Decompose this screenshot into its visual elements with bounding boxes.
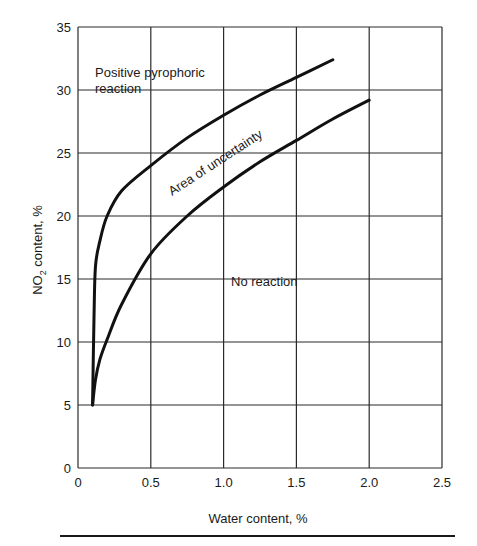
x-tick: 2.5 xyxy=(433,475,451,490)
y-axis-label: NO2 content, % xyxy=(30,205,48,295)
x-tick: 0.5 xyxy=(142,475,160,490)
x-tick: 1.5 xyxy=(287,475,305,490)
curves xyxy=(93,60,370,405)
y-tick: 5 xyxy=(64,398,71,413)
annotation-uncertainty: Area of uncertainty xyxy=(165,126,265,198)
y-tick: 30 xyxy=(57,83,71,98)
x-tick: 0 xyxy=(74,475,81,490)
y-tick: 10 xyxy=(57,335,71,350)
y-tick: 35 xyxy=(57,20,71,35)
chart: 05101520253035 00.51.01.52.02.5 Positive… xyxy=(0,0,477,546)
x-axis-label: Water content, % xyxy=(208,511,308,526)
x-tick: 1.0 xyxy=(215,475,233,490)
y-tick: 0 xyxy=(64,461,71,476)
y-tick: 15 xyxy=(57,272,71,287)
annotation-no-reaction: No reaction xyxy=(231,274,297,289)
annotation-positive: Positive pyrophoric reaction xyxy=(95,65,208,96)
y-tick-labels: 05101520253035 xyxy=(57,20,71,476)
x-tick: 2.0 xyxy=(360,475,378,490)
y-tick: 20 xyxy=(57,209,71,224)
y-tick: 25 xyxy=(57,146,71,161)
x-tick-labels: 00.51.01.52.02.5 xyxy=(74,475,451,490)
